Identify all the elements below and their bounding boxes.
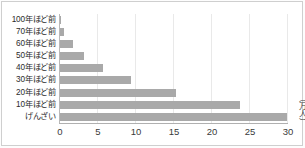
category-label: 50年ほど前 — [16, 50, 56, 62]
category-label: 60年ほど前 — [16, 38, 56, 50]
bar-row: げんざい — [2, 111, 305, 123]
x-tick-label: 5 — [95, 126, 100, 138]
bar — [60, 28, 64, 36]
bar-row: 70年ほど前 — [2, 26, 305, 38]
bar — [60, 52, 84, 60]
x-tick-label: 0 — [57, 126, 62, 138]
bar — [60, 64, 103, 72]
bar — [60, 76, 131, 84]
bar — [60, 16, 61, 24]
bar-row: 10年ほど前 — [2, 99, 305, 111]
unit-label: （万人） — [289, 94, 305, 126]
bar — [60, 113, 287, 121]
bar — [60, 101, 240, 109]
category-label: 40年ほど前 — [16, 62, 56, 74]
chart-frame: 100年ほど前70年ほど前60年ほど前50年ほど前40年ほど前30年ほど前20年… — [1, 1, 303, 146]
bar-row: 20年ほど前 — [2, 87, 305, 99]
bar-row: 30年ほど前 — [2, 74, 305, 86]
bar — [60, 89, 176, 97]
chart-screenshot: 100年ほど前70年ほど前60年ほど前50年ほど前40年ほど前30年ほど前20年… — [0, 0, 305, 148]
x-axis-tick-labels: 051015202530 — [2, 126, 305, 142]
bar-row: 50年ほど前 — [2, 50, 305, 62]
category-label: 100年ほど前 — [12, 14, 56, 26]
bar-row: 100年ほど前 — [2, 14, 305, 26]
x-tick-label: 20 — [207, 126, 218, 138]
bar-rows: 100年ほど前70年ほど前60年ほど前50年ほど前40年ほど前30年ほど前20年… — [2, 14, 305, 124]
bar — [60, 40, 73, 48]
category-label: 20年ほど前 — [16, 87, 56, 99]
category-label: 70年ほど前 — [16, 26, 56, 38]
bar-row: 60年ほど前 — [2, 38, 305, 50]
bar-row: 40年ほど前 — [2, 62, 305, 74]
x-tick-label: 15 — [169, 126, 180, 138]
x-tick-label: 25 — [245, 126, 256, 138]
category-label: 10年ほど前 — [16, 99, 56, 111]
category-label: げんざい — [25, 111, 56, 123]
category-label: 30年ほど前 — [16, 74, 56, 86]
x-tick-label: 10 — [131, 126, 142, 138]
x-tick-label: 30 — [283, 126, 294, 138]
